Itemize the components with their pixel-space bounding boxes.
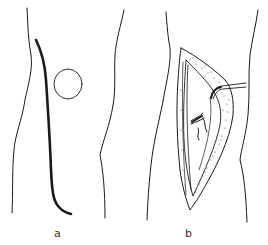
deep-wound-line-3 <box>182 62 186 195</box>
opened-incision-inner <box>184 60 221 196</box>
circle-marking <box>54 69 82 99</box>
limb-outline-left-b <box>147 12 170 220</box>
panel-label-a: a <box>54 228 61 239</box>
surgical-illustration <box>0 0 268 245</box>
limb-outline-right-b <box>240 10 258 222</box>
limb-outline-left-a <box>12 8 31 213</box>
panel-label-b: b <box>185 228 192 239</box>
panel-a <box>12 8 124 218</box>
panel-b <box>147 10 258 222</box>
incision-line <box>36 40 71 214</box>
limb-outline-right-a <box>100 10 124 218</box>
